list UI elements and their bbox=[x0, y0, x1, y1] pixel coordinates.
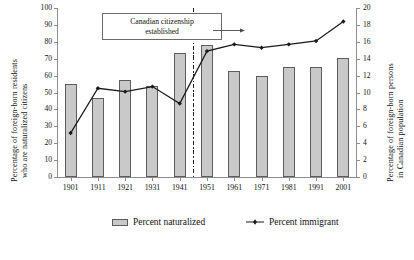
right-tick bbox=[357, 109, 360, 110]
right-tick bbox=[357, 25, 360, 26]
data-point-marker bbox=[287, 42, 291, 46]
right-tick-label: 12 bbox=[363, 72, 385, 80]
right-tick bbox=[357, 8, 360, 9]
right-tick-label: 6 bbox=[363, 122, 385, 130]
annotation-box: Canadian citizenship established bbox=[102, 13, 222, 40]
x-tick bbox=[180, 178, 181, 181]
legend-item-percent-naturalized: Percent naturalized bbox=[112, 217, 205, 227]
x-tick bbox=[152, 178, 153, 181]
right-tick-label: 4 bbox=[363, 139, 385, 147]
x-tick bbox=[262, 178, 263, 181]
legend-item-percent-immigrant: Percent immigrant bbox=[246, 217, 339, 227]
left-tick-label: 90 bbox=[30, 21, 52, 29]
left-tick-label: 100 bbox=[30, 4, 52, 12]
right-tick bbox=[357, 93, 360, 94]
left-tick-label: 60 bbox=[30, 72, 52, 80]
right-tick bbox=[357, 59, 360, 60]
right-tick-label: 16 bbox=[363, 38, 385, 46]
right-tick-label: 2 bbox=[363, 156, 385, 164]
left-tick-label: 0 bbox=[30, 173, 52, 181]
right-tick bbox=[357, 143, 360, 144]
chart-figure: Percentage of foreign-born residents who… bbox=[0, 0, 414, 260]
x-tick bbox=[316, 178, 317, 181]
left-tick-label: 10 bbox=[30, 156, 52, 164]
right-tick bbox=[357, 76, 360, 77]
x-tick bbox=[207, 178, 208, 181]
left-tick-label: 50 bbox=[30, 89, 52, 97]
right-tick bbox=[357, 160, 360, 161]
line-marker-icon bbox=[246, 218, 264, 226]
x-tick bbox=[125, 178, 126, 181]
right-tick-label: 18 bbox=[363, 21, 385, 29]
data-point-marker bbox=[232, 42, 236, 46]
data-point-marker bbox=[205, 49, 209, 53]
right-tick-label: 20 bbox=[363, 4, 385, 12]
left-tick-label: 80 bbox=[30, 38, 52, 46]
legend-label-percent-naturalized: Percent naturalized bbox=[133, 217, 205, 227]
legend-label-percent-immigrant: Percent immigrant bbox=[269, 217, 339, 227]
data-point-marker bbox=[123, 89, 127, 93]
left-tick-label: 40 bbox=[30, 105, 52, 113]
y2-axis-title-line2: in Canadian population bbox=[396, 99, 405, 178]
y2-axis-title-line1: Percentage of foreign-born persons bbox=[386, 63, 395, 182]
x-tick bbox=[289, 178, 290, 181]
x-tick bbox=[71, 178, 72, 181]
y-axis-title-line2: who are naturalized citizens bbox=[20, 84, 29, 178]
chart-legend: Percent naturalized Percent immigrant bbox=[0, 213, 414, 237]
right-tick bbox=[357, 126, 360, 127]
x-tick bbox=[343, 178, 344, 181]
annotation-text-line2: established bbox=[107, 27, 217, 37]
x-tick-label: 2001 bbox=[326, 184, 360, 192]
right-tick bbox=[357, 177, 360, 178]
right-tick bbox=[357, 42, 360, 43]
x-tick bbox=[98, 178, 99, 181]
right-tick-label: 8 bbox=[363, 105, 385, 113]
right-tick-label: 10 bbox=[363, 89, 385, 97]
right-tick-label: 0 bbox=[363, 173, 385, 181]
left-tick-label: 30 bbox=[30, 122, 52, 130]
data-point-marker bbox=[259, 46, 263, 50]
y-axis-title-line1: Percentage of foreign-born residents bbox=[10, 59, 19, 182]
bar-swatch-icon bbox=[112, 219, 128, 226]
left-tick-label: 70 bbox=[30, 55, 52, 63]
left-tick-label: 20 bbox=[30, 139, 52, 147]
x-tick bbox=[234, 178, 235, 181]
annotation-text-line1: Canadian citizenship bbox=[107, 17, 217, 27]
annotation-arrow-icon bbox=[213, 27, 246, 34]
right-tick-label: 14 bbox=[363, 55, 385, 63]
